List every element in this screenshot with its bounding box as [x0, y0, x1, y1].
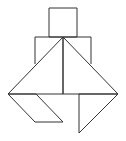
head-square: [49, 8, 77, 37]
right-small-triangle: [79, 94, 118, 133]
left-parallelogram: [8, 94, 63, 122]
tangram-diagram: [0, 0, 126, 141]
